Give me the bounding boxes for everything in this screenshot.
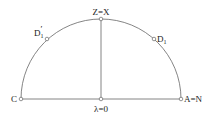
label-a-n: A=N bbox=[184, 94, 203, 104]
point-d1-prime bbox=[45, 37, 49, 41]
point-d1 bbox=[152, 37, 156, 41]
diagram-canvas: Z=X D1′ D1 C A=N λ=0 bbox=[0, 0, 212, 121]
label-d1: D1 bbox=[157, 34, 167, 45]
label-z-x: Z=X bbox=[92, 7, 110, 17]
label-c: C bbox=[11, 94, 17, 104]
point-a bbox=[179, 97, 183, 101]
point-z bbox=[99, 17, 103, 21]
point-origin bbox=[99, 97, 103, 101]
label-lambda-zero: λ=0 bbox=[94, 104, 108, 114]
label-d1-prime: D1′ bbox=[34, 24, 44, 39]
point-c bbox=[19, 97, 23, 101]
